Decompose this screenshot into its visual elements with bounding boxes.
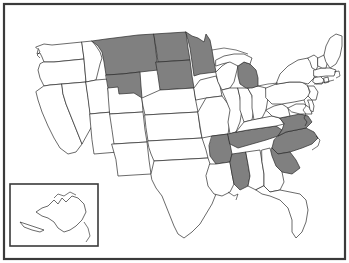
- state-massachusetts[interactable]: [314, 68, 336, 77]
- map-frame: [0, 0, 349, 263]
- us-map-svg: [0, 0, 349, 263]
- state-colorado[interactable]: [110, 112, 147, 144]
- state-kansas[interactable]: [145, 112, 202, 141]
- us-map-figure: [0, 0, 349, 263]
- state-oregon[interactable]: [38, 59, 86, 86]
- state-washington[interactable]: [36, 42, 84, 62]
- state-alabama[interactable]: [246, 150, 264, 190]
- state-new-mexico[interactable]: [112, 142, 151, 176]
- state-north-dakota[interactable]: [154, 32, 190, 62]
- state-south-dakota[interactable]: [156, 60, 194, 90]
- state-oklahoma[interactable]: [148, 138, 208, 161]
